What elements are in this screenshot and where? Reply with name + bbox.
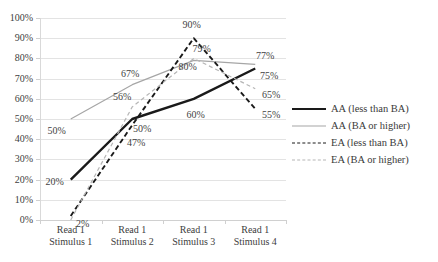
data-point-label: 60% [187, 110, 205, 120]
y-axis-tick-label: 30% [15, 154, 33, 164]
x-axis-category-line: Stimulus 2 [111, 236, 154, 248]
y-axis-tick-label: 80% [15, 53, 33, 63]
data-point-label: 50% [133, 124, 151, 134]
legend-item-label: EA (less than BA) [331, 137, 408, 148]
series-layer [40, 18, 286, 220]
y-axis-tick-label: 100% [10, 13, 33, 23]
y-axis-tick-label: 10% [15, 195, 33, 205]
y-axis-tick-label: 50% [15, 114, 33, 124]
x-axis-category-line: Stimulus 4 [234, 236, 277, 248]
x-axis-category-line: Read 1 [172, 224, 215, 236]
y-axis-tick-label: 20% [15, 175, 33, 185]
plot-area: 20%50%60%75%50%67%79%77%2%47%90%55%56%80… [40, 18, 286, 220]
series-line [71, 60, 256, 119]
series-line [71, 38, 256, 216]
x-axis-category-line: Stimulus 3 [172, 236, 215, 248]
y-axis-tick-label: 70% [15, 74, 33, 84]
data-point-label: 90% [183, 20, 201, 30]
x-axis-labels: Read 1Stimulus 1Read 1Stimulus 2Read 1St… [40, 224, 286, 258]
x-axis-category-label: Read 1Stimulus 1 [49, 224, 92, 248]
chart-legend: AA (less than BA)AA (BA or higher)EA (le… [292, 100, 438, 168]
legend-item[interactable]: EA (less than BA) [292, 134, 438, 151]
y-axis-tick-label: 0% [20, 215, 33, 225]
data-point-label: 65% [262, 90, 280, 100]
legend-line-swatch [292, 155, 326, 165]
legend-line-swatch [292, 138, 326, 148]
y-axis-tick-label: 90% [15, 33, 33, 43]
legend-line-swatch [292, 121, 326, 131]
data-point-label: 77% [256, 51, 274, 61]
x-axis-category-line: Read 1 [234, 224, 277, 236]
x-axis-category-label: Read 1Stimulus 2 [111, 224, 154, 248]
data-point-label: 50% [48, 126, 66, 136]
legend-item[interactable]: AA (BA or higher) [292, 117, 438, 134]
data-point-label: 56% [113, 92, 131, 102]
y-axis-labels: 100%90%80%70%60%50%40%30%20%10%0% [0, 18, 36, 220]
x-axis-category-label: Read 1Stimulus 3 [172, 224, 215, 248]
data-point-label: 20% [46, 177, 64, 187]
y-axis-tick-label: 40% [15, 134, 33, 144]
legend-item[interactable]: EA (BA or higher) [292, 151, 438, 168]
data-point-label: 75% [260, 71, 278, 81]
x-axis-category-label: Read 1Stimulus 4 [234, 224, 277, 248]
data-point-label: 80% [179, 62, 197, 72]
data-point-label: 55% [262, 110, 280, 120]
data-point-label: 67% [121, 69, 139, 79]
data-point-label: 79% [193, 44, 211, 54]
x-axis-category-line: Read 1 [49, 224, 92, 236]
legend-item-label: EA (BA or higher) [331, 154, 409, 165]
y-axis-tick-label: 60% [15, 94, 33, 104]
chart-title [90, 0, 310, 4]
legend-line-swatch [292, 104, 326, 114]
data-point-label: 47% [127, 138, 145, 148]
legend-item-label: AA (less than BA) [331, 103, 409, 114]
line-chart: 100%90%80%70%60%50%40%30%20%10%0% 20%50%… [0, 0, 438, 262]
series-line [71, 69, 256, 180]
legend-item-label: AA (BA or higher) [331, 120, 410, 131]
legend-item[interactable]: AA (less than BA) [292, 100, 438, 117]
x-axis-tick [286, 220, 287, 224]
x-axis-category-line: Stimulus 1 [49, 236, 92, 248]
x-axis-category-line: Read 1 [111, 224, 154, 236]
